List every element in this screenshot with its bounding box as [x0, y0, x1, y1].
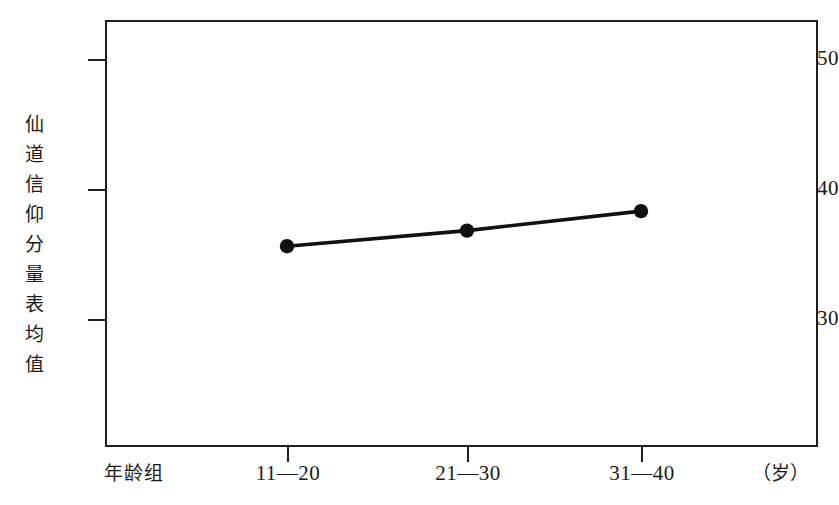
y-tick-label-30: 30 — [795, 308, 839, 329]
y-axis-title: 仙道信仰分量表均值 — [14, 114, 48, 384]
x-tick-mark-3 — [641, 447, 643, 462]
x-tick-mark-2 — [467, 447, 469, 462]
x-tick-mark-1 — [287, 447, 289, 462]
plot-frame — [105, 20, 818, 447]
y-tick-label-40: 40 — [795, 178, 839, 199]
y-tick-mark-40 — [88, 189, 106, 191]
chart-canvas: 仙道信仰分量表均值 50 40 30 11—20 21—30 31—40 年龄组… — [0, 0, 839, 505]
y-tick-mark-50 — [88, 59, 106, 61]
x-tick-label-3: 31—40 — [572, 461, 712, 485]
x-tick-label-2: 21—30 — [398, 461, 538, 485]
y-tick-label-50: 50 — [795, 48, 839, 69]
x-axis-title: 年龄组 — [104, 461, 164, 485]
y-tick-mark-30 — [88, 319, 106, 321]
x-axis-unit-label: （岁） — [752, 461, 809, 485]
x-tick-label-1: 11—20 — [218, 461, 358, 485]
